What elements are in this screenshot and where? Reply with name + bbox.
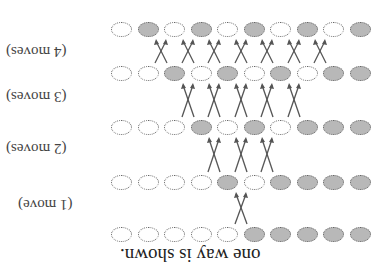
white-circle xyxy=(138,120,159,135)
label-4-moves: (4 moves) xyxy=(6,43,66,60)
grey-circle xyxy=(323,120,344,135)
grey-circle xyxy=(217,66,238,81)
swap-arrow-icon xyxy=(204,39,224,63)
swap-arrow-icon xyxy=(257,83,277,117)
white-circle xyxy=(111,120,132,135)
grey-circle xyxy=(350,66,371,81)
grey-circle xyxy=(297,22,318,37)
white-circle xyxy=(217,22,238,37)
swap-arrow-icon xyxy=(151,39,171,63)
swap-arrow-icon xyxy=(310,39,330,63)
grey-circle xyxy=(350,120,371,135)
white-circle xyxy=(191,66,212,81)
white-circle xyxy=(164,175,185,190)
grey-circle xyxy=(350,227,371,242)
grey-circle xyxy=(323,227,344,242)
swap-arrow-icon xyxy=(178,83,198,117)
grey-circle xyxy=(270,175,291,190)
swap-diagram: one way is shown. (1 move) (2 moves) (3 … xyxy=(0,0,372,270)
white-circle xyxy=(270,120,291,135)
grey-circle xyxy=(244,120,265,135)
white-circle xyxy=(138,66,159,81)
label-2-moves: (2 moves) xyxy=(6,140,66,157)
white-circle xyxy=(111,22,132,37)
grey-circle xyxy=(270,66,291,81)
swap-arrow-icon xyxy=(231,39,251,63)
grey-circle xyxy=(138,22,159,37)
grey-circle xyxy=(323,66,344,81)
white-circle xyxy=(138,227,159,242)
swap-arrow-icon xyxy=(257,137,277,172)
swap-arrow-icon xyxy=(231,192,251,224)
grey-circle xyxy=(350,175,371,190)
grey-circle xyxy=(350,22,371,37)
white-circle xyxy=(297,66,318,81)
swap-arrow-icon xyxy=(231,137,251,172)
white-circle xyxy=(111,66,132,81)
label-3-moves: (3 moves) xyxy=(6,88,66,105)
white-circle xyxy=(138,175,159,190)
caption: one way is shown. xyxy=(120,244,260,266)
grey-circle xyxy=(244,22,265,37)
grey-circle xyxy=(297,227,318,242)
white-circle xyxy=(244,66,265,81)
white-circle xyxy=(270,22,291,37)
white-circle xyxy=(111,227,132,242)
white-circle xyxy=(191,227,212,242)
grey-circle xyxy=(297,120,318,135)
grey-circle xyxy=(191,22,212,37)
white-circle xyxy=(244,175,265,190)
grey-circle xyxy=(297,175,318,190)
white-circle xyxy=(217,120,238,135)
label-1-move: (1 move) xyxy=(18,196,73,213)
grey-circle xyxy=(164,66,185,81)
grey-circle xyxy=(217,175,238,190)
swap-arrow-icon xyxy=(231,83,251,117)
white-circle xyxy=(164,227,185,242)
white-circle xyxy=(217,227,238,242)
grey-circle xyxy=(191,120,212,135)
grey-circle xyxy=(270,227,291,242)
white-circle xyxy=(164,22,185,37)
white-circle xyxy=(191,175,212,190)
swap-arrow-icon xyxy=(284,83,304,117)
white-circle xyxy=(323,22,344,37)
swap-arrow-icon xyxy=(284,39,304,63)
white-circle xyxy=(164,120,185,135)
swap-arrow-icon xyxy=(178,39,198,63)
grey-circle xyxy=(323,175,344,190)
swap-arrow-icon xyxy=(204,83,224,117)
swap-arrow-icon xyxy=(257,39,277,63)
white-circle xyxy=(111,175,132,190)
grey-circle xyxy=(244,227,265,242)
swap-arrow-icon xyxy=(204,137,224,172)
